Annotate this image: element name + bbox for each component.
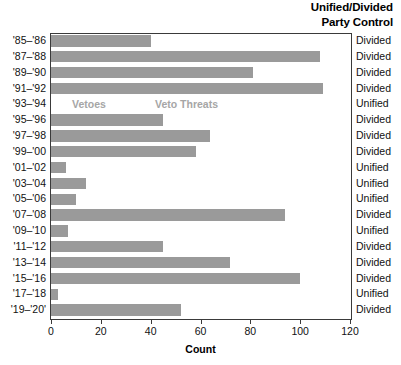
row-category-label: '03–'04 [0, 176, 46, 192]
bar [51, 209, 285, 220]
x-axis-tick-mark [51, 319, 52, 324]
bar-row: '09–'10Unified [0, 223, 401, 239]
x-axis-tick-mark [300, 319, 301, 324]
row-category-label: '19–'20' [0, 302, 46, 318]
row-party-control-label: Unified [356, 223, 389, 239]
x-axis-tick-mark [350, 319, 351, 324]
bar [51, 83, 323, 94]
bar [51, 178, 86, 189]
x-axis-title: Count [50, 343, 351, 355]
row-party-control-label: Divided [356, 144, 391, 160]
bar [51, 304, 181, 315]
x-axis-tick-label: 100 [280, 325, 320, 337]
bar [51, 130, 210, 141]
bar [51, 35, 151, 46]
bar [51, 289, 58, 300]
row-party-control-label: Unified [356, 176, 389, 192]
row-party-control-label: Divided [356, 271, 391, 287]
bar-rows-container: '85–'86Divided'87–'88Divided'89–'90Divid… [0, 33, 401, 319]
x-axis-tick-label: 80 [230, 325, 270, 337]
row-party-control-label: Unified [356, 286, 389, 302]
bar-row: '01–'02Unified [0, 160, 401, 176]
x-axis-tick-label: 120 [330, 325, 370, 337]
bar [51, 114, 163, 125]
row-category-label: '07–'08 [0, 207, 46, 223]
row-party-control-label: Divided [356, 302, 391, 318]
bar-row: '97–'98Divided [0, 128, 401, 144]
x-axis-tick-label: 40 [131, 325, 171, 337]
bar-row: '17–'18Unified [0, 286, 401, 302]
bar-row: '93–'94Unified [0, 96, 401, 112]
bar-row: '99–'00Divided [0, 144, 401, 160]
bar [51, 146, 196, 157]
row-category-label: '09–'10 [0, 223, 46, 239]
x-axis-tick-label: 60 [181, 325, 221, 337]
row-category-label: '17–'18 [0, 286, 46, 302]
row-category-label: '15–'16 [0, 271, 46, 287]
header-line-2: Party Control [0, 15, 393, 30]
bar-row: '11–'12Divided [0, 239, 401, 255]
row-party-control-label: Unified [356, 191, 389, 207]
x-axis-tick-mark [101, 319, 102, 324]
bar-row: '91–'92Divided [0, 81, 401, 97]
bar [51, 273, 300, 284]
bar [51, 51, 320, 62]
row-category-label: '01–'02 [0, 160, 46, 176]
x-axis-tick-mark [250, 319, 251, 324]
row-category-label: '05–'06 [0, 191, 46, 207]
x-axis-tick-mark [151, 319, 152, 324]
row-party-control-label: Divided [356, 33, 391, 49]
bar-row: '95–'96Divided [0, 112, 401, 128]
row-category-label: '95–'96 [0, 112, 46, 128]
bar [51, 225, 68, 236]
bar-row: '15–'16Divided [0, 271, 401, 287]
row-party-control-label: Divided [356, 65, 391, 81]
x-axis-tick-label: 20 [81, 325, 121, 337]
row-party-control-label: Divided [356, 207, 391, 223]
row-party-control-label: Divided [356, 128, 391, 144]
bar [51, 67, 253, 78]
x-axis-tick-mark [201, 319, 202, 324]
row-category-label: '93–'94 [0, 96, 46, 112]
bar-row: '13–'14Divided [0, 255, 401, 271]
row-category-label: '13–'14 [0, 255, 46, 271]
row-category-label: '99–'00 [0, 144, 46, 160]
row-party-control-label: Divided [356, 112, 391, 128]
bar-row: '85–'86Divided [0, 33, 401, 49]
bar-row: '89–'90Divided [0, 65, 401, 81]
bar [51, 241, 163, 252]
party-control-header: Unified/Divided Party Control [0, 0, 393, 30]
bar [51, 257, 230, 268]
bar-row: '03–'04Unified [0, 176, 401, 192]
x-axis-tick-label: 0 [31, 325, 71, 337]
row-category-label: '87–'88 [0, 49, 46, 65]
bar [51, 194, 76, 205]
row-party-control-label: Divided [356, 255, 391, 271]
x-axis: Count 020406080100120 [50, 319, 351, 365]
row-party-control-label: Unified [356, 96, 389, 112]
row-party-control-label: Divided [356, 81, 391, 97]
row-party-control-label: Divided [356, 49, 391, 65]
row-category-label: '85–'86 [0, 33, 46, 49]
bar-row: '19–'20'Divided [0, 302, 401, 318]
bar-row: '87–'88Divided [0, 49, 401, 65]
bar [51, 162, 66, 173]
row-party-control-label: Unified [356, 160, 389, 176]
row-category-label: '89–'90 [0, 65, 46, 81]
header-line-1: Unified/Divided [0, 0, 393, 15]
row-category-label: '97–'98 [0, 128, 46, 144]
bar-row: '07–'08Divided [0, 207, 401, 223]
bar-row: '05–'06Unified [0, 191, 401, 207]
row-party-control-label: Divided [356, 239, 391, 255]
row-category-label: '91–'92 [0, 81, 46, 97]
row-category-label: '11–'12 [0, 239, 46, 255]
